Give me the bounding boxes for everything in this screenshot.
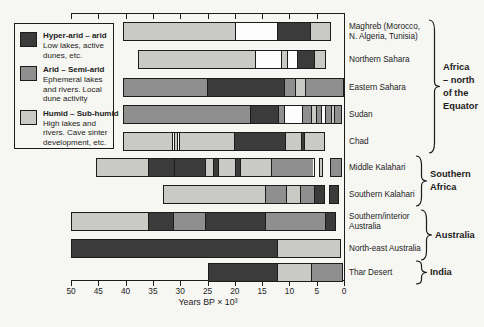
group-brace — [421, 210, 432, 260]
bar-segment-humid — [311, 23, 330, 40]
bar-label: Northern Sahara — [349, 55, 410, 65]
bar-segment-white — [236, 23, 279, 40]
bar-label: Eastern Sahara — [349, 83, 406, 93]
bar-run — [123, 105, 341, 124]
bar-segment-humid — [241, 159, 272, 176]
group-label: Australia — [435, 229, 475, 242]
bar-segment-humid — [164, 186, 266, 203]
bar-label: North-east Australia — [349, 244, 421, 254]
bar-segment-hyper-arid — [72, 240, 278, 257]
bar-run — [138, 50, 326, 69]
bar-segment-arid — [301, 186, 315, 203]
group-brace — [416, 261, 427, 284]
bar-segment-humid — [278, 264, 312, 281]
bar-segment-hyper-arid — [209, 264, 279, 281]
bar-segment-arid — [272, 159, 314, 176]
bar-segment-hyper-arid — [208, 79, 285, 96]
bar-run — [123, 22, 331, 41]
bars-area — [71, 13, 344, 281]
bar-segment-arid — [335, 106, 340, 123]
bar-run — [96, 158, 315, 177]
bar-label: Southern/interiorAustralia — [349, 212, 410, 232]
bar-segment-arid — [266, 186, 287, 203]
bar-run — [330, 158, 341, 177]
bar-label: Maghreb (Morocco,N. Algeria, Tunisia) — [349, 22, 420, 42]
bar-segment-humid — [124, 23, 235, 40]
x-axis-tick-label: 45 — [89, 287, 107, 296]
group-brace — [429, 20, 440, 153]
bar-segment-hyper-arid — [298, 51, 314, 68]
bar-label: Sudan — [349, 110, 373, 120]
bar-segment-arid — [124, 79, 207, 96]
bar-label: Chad — [349, 137, 369, 147]
bar-segment-hyper-arid — [326, 213, 336, 230]
x-axis-title: Years BP × 10³ — [158, 297, 258, 307]
x-axis-tick-label: 15 — [253, 287, 271, 296]
bar-run — [123, 78, 344, 97]
x-axis-tick-label: 10 — [280, 287, 298, 296]
bar-segment-hyper-arid — [149, 159, 175, 176]
x-axis-tick-label: 5 — [308, 287, 326, 296]
x-axis-tick-label: 0 — [335, 287, 353, 296]
bar-segment-arid — [174, 213, 206, 230]
bar-run — [319, 158, 323, 177]
legend-swatch-hyper-arid-icon — [20, 32, 37, 47]
bar-label: Middle Kalahari — [349, 163, 405, 173]
bar-segment-hyper-arid — [149, 213, 174, 230]
figure: Hyper-arid – arid Low lakes, active dune… — [0, 0, 484, 327]
bar-segment-humid — [206, 159, 214, 176]
bar-run — [71, 212, 336, 231]
bar-segment-humid — [296, 79, 306, 96]
bar-segment-humid — [315, 51, 325, 68]
bar-segment-hyper-arid — [278, 23, 311, 40]
plot-right-border — [344, 13, 345, 281]
bar-segment-humid — [180, 133, 235, 150]
x-axis-tick-label: 50 — [62, 287, 80, 296]
bar-run — [329, 185, 339, 204]
x-axis-tick-label: 20 — [226, 287, 244, 296]
bar-segment-white — [288, 51, 298, 68]
x-axis-tick-label: 25 — [199, 287, 217, 296]
group-label: India — [430, 266, 452, 279]
bar-segment-arid — [331, 159, 340, 176]
bar-label: Thar Desert — [349, 268, 392, 278]
bar-segment-humid — [97, 159, 149, 176]
bar-segment-arid — [285, 79, 296, 96]
bar-segment-arid — [303, 106, 312, 123]
bar-segment-humid — [72, 213, 149, 230]
bar-run — [123, 132, 324, 151]
bar-segment-hyper-arid — [330, 186, 338, 203]
bar-segment-hyper-arid — [175, 159, 206, 176]
x-axis-tick-label: 35 — [144, 287, 162, 296]
legend-swatch-humid-icon — [20, 110, 37, 125]
bar-segment-humid — [287, 186, 300, 203]
bar-segment-humid — [286, 133, 302, 150]
bar-segment-arid — [266, 213, 326, 230]
bar-segment-humid — [278, 240, 340, 257]
bar-segment-white — [285, 106, 303, 123]
x-axis-tick-label: 40 — [117, 287, 135, 296]
bar-segment-humid — [320, 159, 322, 176]
bar-segment-white — [256, 51, 282, 68]
legend-swatch-arid-icon — [20, 66, 37, 81]
group-label: SouthernAfrica — [430, 168, 471, 194]
bar-run — [163, 185, 325, 204]
bar-label: Southern Kalahari — [349, 190, 415, 200]
x-axis-tick — [344, 14, 345, 19]
bar-segment-hyper-arid — [315, 186, 324, 203]
group-label: Africa– northof theEquator — [443, 61, 478, 113]
bar-segment-arid — [124, 106, 251, 123]
bar-segment-humid — [124, 133, 173, 150]
bar-segment-arid — [306, 79, 343, 96]
bar-segment-hyper-arid — [235, 133, 286, 150]
bar-segment-humid — [305, 133, 323, 150]
bar-segment-hyper-arid — [251, 106, 279, 123]
bar-segment-humid — [219, 159, 236, 176]
bar-segment-arid — [312, 264, 342, 281]
x-axis-tick-label: 30 — [171, 287, 189, 296]
group-brace — [416, 156, 427, 206]
bar-run — [208, 263, 344, 282]
bar-run — [71, 239, 341, 258]
bar-segment-hyper-arid — [206, 213, 266, 230]
bar-segment-humid — [139, 51, 257, 68]
